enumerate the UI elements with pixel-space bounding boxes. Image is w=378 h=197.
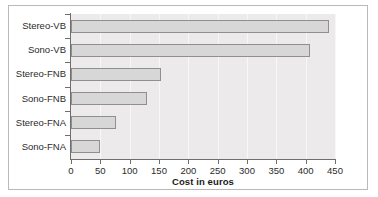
gridline bbox=[306, 14, 307, 159]
y-axis-tick-label: Stereo-VB bbox=[22, 21, 66, 31]
gridline bbox=[247, 14, 248, 159]
gridline bbox=[188, 14, 189, 159]
x-axis-title: Cost in euros bbox=[71, 176, 335, 187]
gridline bbox=[218, 14, 219, 159]
x-axis-tick bbox=[130, 160, 131, 164]
bar bbox=[71, 116, 116, 129]
gridline bbox=[159, 14, 160, 159]
y-axis-tick bbox=[65, 38, 70, 39]
y-axis-line bbox=[70, 13, 71, 160]
x-axis-tick bbox=[159, 160, 160, 164]
y-axis-tick bbox=[65, 14, 70, 15]
y-axis-tick bbox=[65, 87, 70, 88]
plot-area bbox=[71, 14, 335, 159]
x-axis-tick bbox=[335, 160, 336, 164]
y-axis-tick-label: Stereo-FNB bbox=[16, 69, 66, 79]
x-axis-tick bbox=[100, 160, 101, 164]
bar bbox=[71, 68, 161, 81]
bar bbox=[71, 20, 329, 33]
x-axis-tick bbox=[276, 160, 277, 164]
bar bbox=[71, 140, 100, 153]
y-axis-tick-label: Sono-VB bbox=[28, 45, 66, 55]
gridline bbox=[130, 14, 131, 159]
y-axis-tick-label: Sono-FNA bbox=[22, 142, 66, 152]
bar bbox=[71, 92, 147, 105]
y-axis-tick bbox=[65, 111, 70, 112]
x-axis-tick bbox=[71, 160, 72, 164]
x-axis-tick bbox=[218, 160, 219, 164]
bar bbox=[71, 44, 310, 57]
y-axis-tick-label: Sono-FNB bbox=[22, 94, 66, 104]
y-axis-tick bbox=[65, 135, 70, 136]
y-axis-tick bbox=[65, 62, 70, 63]
gridline bbox=[276, 14, 277, 159]
x-axis-tick bbox=[306, 160, 307, 164]
y-axis-tick-label: Stereo-FNA bbox=[16, 118, 66, 128]
gridline bbox=[100, 14, 101, 159]
gridline bbox=[335, 14, 336, 159]
x-axis-tick bbox=[247, 160, 248, 164]
chart-figure: Cost in euros Sono-FNAStereo-FNASono-FNB… bbox=[0, 0, 378, 197]
x-axis-tick bbox=[188, 160, 189, 164]
x-axis-line bbox=[70, 159, 336, 160]
x-axis-tick-label: 450 bbox=[315, 165, 355, 176]
